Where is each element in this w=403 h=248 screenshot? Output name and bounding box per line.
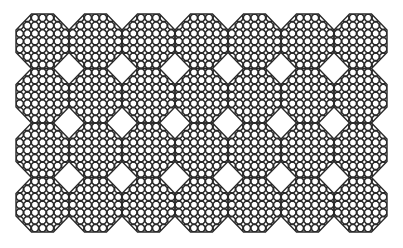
- octagon-tile: [175, 178, 228, 233]
- octagon-tile: [16, 178, 69, 233]
- octagon-tile: [122, 123, 175, 178]
- octagon-tile: [69, 123, 122, 178]
- octagon-tile: [228, 14, 281, 69]
- octagon-tile: [69, 178, 122, 233]
- octagon-tile: [16, 14, 69, 69]
- octagon-tile: [175, 69, 228, 124]
- octagon-tile: [228, 123, 281, 178]
- octagon-tile: [122, 178, 175, 233]
- octagon-tile: [69, 69, 122, 124]
- octagon-tile: [334, 178, 387, 233]
- octagon-tile: [281, 123, 334, 178]
- octagon-tile: [281, 69, 334, 124]
- octagon-tile: [228, 69, 281, 124]
- octagon-tile: [334, 14, 387, 69]
- octagon-tile-pattern: [0, 0, 403, 248]
- octagon-tile: [228, 178, 281, 233]
- octagon-tile: [69, 14, 122, 69]
- octagon-tile: [122, 14, 175, 69]
- octagon-tile: [281, 14, 334, 69]
- octagon-tile: [16, 69, 69, 124]
- octagon-tile: [175, 14, 228, 69]
- octagon-tile: [122, 69, 175, 124]
- octagon-tile: [334, 69, 387, 124]
- octagon-tile: [175, 123, 228, 178]
- octagon-tile: [281, 178, 334, 233]
- octagon-tile: [334, 123, 387, 178]
- octagon-tile: [16, 123, 69, 178]
